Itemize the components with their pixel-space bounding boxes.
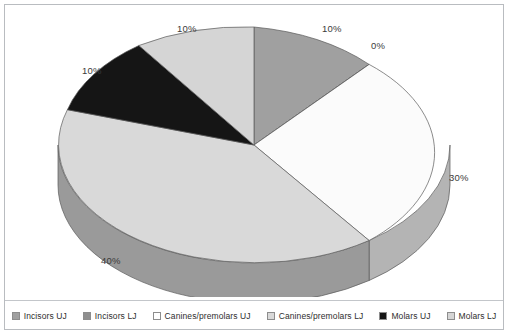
legend-divider bbox=[5, 300, 503, 301]
legend-label-incisors-lj: Incisors LJ bbox=[95, 312, 137, 321]
pie-label-molars-lj: 10% bbox=[177, 23, 197, 34]
legend-item-canines-premolars-lj[interactable]: Canines/premolars LJ bbox=[267, 312, 364, 321]
legend-label-canines-premolars-uj: Canines/premolars UJ bbox=[165, 312, 251, 321]
legend-item-molars-lj[interactable]: Molars LJ bbox=[447, 312, 497, 321]
legend-item-incisors-lj[interactable]: Incisors LJ bbox=[83, 312, 137, 321]
pie-label-incisors-lj: 0% bbox=[371, 40, 385, 51]
pie-label-canines-premolars-lj: 40% bbox=[101, 255, 121, 266]
legend-swatch-icon-incisors-uj bbox=[12, 312, 20, 320]
chart-legend: Incisors UJ Incisors LJ Canines/premolar… bbox=[5, 305, 503, 327]
pie-chart-plot-area: 10% 0% 30% 40% 10% 10% bbox=[5, 5, 503, 297]
legend-label-molars-uj: Molars UJ bbox=[391, 312, 430, 321]
legend-label-canines-premolars-lj: Canines/premolars LJ bbox=[279, 312, 364, 321]
pie-label-molars-uj: 10% bbox=[82, 65, 102, 76]
legend-swatch-icon-canines-premolars-uj bbox=[153, 312, 161, 320]
legend-label-molars-lj: Molars LJ bbox=[459, 312, 497, 321]
pie-label-incisors-uj: 10% bbox=[322, 23, 342, 34]
legend-label-incisors-uj: Incisors UJ bbox=[24, 312, 67, 321]
legend-item-incisors-uj[interactable]: Incisors UJ bbox=[12, 312, 67, 321]
pie-top-face bbox=[59, 27, 435, 263]
legend-swatch-icon-canines-premolars-lj bbox=[267, 312, 275, 320]
legend-swatch-icon-molars-lj bbox=[447, 312, 455, 320]
legend-swatch-icon-molars-uj bbox=[379, 312, 387, 320]
legend-item-canines-premolars-uj[interactable]: Canines/premolars UJ bbox=[153, 312, 251, 321]
chart-frame: 10% 0% 30% 40% 10% 10% Incisors UJ Incis… bbox=[4, 4, 504, 330]
legend-swatch-icon-incisors-lj bbox=[83, 312, 91, 320]
legend-item-molars-uj[interactable]: Molars UJ bbox=[379, 312, 430, 321]
pie-label-canines-premolars-uj: 30% bbox=[449, 172, 469, 183]
pie-svg bbox=[5, 5, 503, 297]
